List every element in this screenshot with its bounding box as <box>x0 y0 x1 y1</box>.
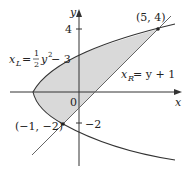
y-axis-arrow-icon <box>76 9 82 17</box>
x-axis-arrow-icon <box>174 89 182 95</box>
line-equation-label: x R = y + 1 <box>121 68 175 83</box>
y-tick-label-neg2: −2 <box>85 118 101 131</box>
y-tick-label-4: 4 <box>65 23 72 36</box>
svg-text:y: y <box>40 53 48 66</box>
svg-text:− 3: − 3 <box>51 53 71 66</box>
svg-text:L: L <box>15 59 21 68</box>
point-label-neg1-neg2: (−1, −2) <box>15 120 63 133</box>
region-between-curves-diagram: y x 0 4 −2 (5, 4) (−1, −2) x L = 1 2 y 2… <box>0 0 193 171</box>
svg-text:1: 1 <box>34 49 39 58</box>
svg-text:=: = <box>22 53 31 66</box>
y-axis-label: y <box>69 6 77 19</box>
svg-text:= y + 1: = y + 1 <box>133 68 175 81</box>
point-5-4 <box>156 27 160 31</box>
svg-text:x: x <box>121 68 128 81</box>
x-axis-label: x <box>175 96 182 109</box>
point-label-5-4: (5, 4) <box>136 11 166 24</box>
origin-label: 0 <box>70 96 77 109</box>
svg-text:2: 2 <box>34 60 39 69</box>
svg-text:x: x <box>9 53 16 66</box>
